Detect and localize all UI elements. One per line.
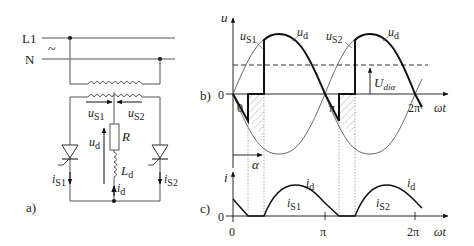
id-curve-label-2: id bbox=[407, 176, 415, 192]
ud-curve-label-2: ud bbox=[388, 25, 399, 41]
circuit-diagram: L1 N ~ uS1 uS2 R Ld ud id bbox=[22, 31, 178, 215]
tick-2pi-b: 2π bbox=[408, 101, 420, 115]
us1-label: uS1 bbox=[88, 106, 105, 122]
hatch-region-1 bbox=[248, 94, 264, 136]
is1-curve-label: iS1 bbox=[287, 196, 301, 212]
n-label: N bbox=[25, 52, 35, 67]
thyristor-1 bbox=[58, 145, 78, 165]
primary-winding bbox=[88, 82, 142, 85]
is2-curve-label: iS2 bbox=[376, 196, 390, 212]
l1-label: L1 bbox=[22, 31, 36, 46]
wt-label-c: ωt bbox=[434, 225, 446, 239]
thyristor-2 bbox=[148, 145, 168, 165]
ac-symbol: ~ bbox=[48, 42, 56, 57]
tick-2pi-c: 2π bbox=[407, 225, 419, 239]
resistor bbox=[110, 124, 119, 150]
udia-label: Udiα bbox=[374, 75, 395, 92]
hatch-region-2 bbox=[339, 94, 355, 136]
us1-curve-label: uS1 bbox=[240, 29, 257, 45]
secondary-winding bbox=[88, 95, 142, 98]
panel-a-label: a) bbox=[26, 200, 36, 215]
tick-pi-c: π bbox=[320, 225, 326, 239]
ud-label: ud bbox=[89, 135, 100, 151]
current-chart: i 0 0 π 2π ωt c) id iS1 id iS2 bbox=[200, 170, 448, 239]
resistor-label: R bbox=[121, 129, 130, 144]
is2-label: iS2 bbox=[164, 172, 178, 188]
i-axis-label: i bbox=[224, 170, 228, 185]
panel-b-label: b) bbox=[200, 88, 211, 103]
tick-0-c: 0 bbox=[229, 225, 235, 239]
us2-label: uS2 bbox=[128, 106, 145, 122]
id-curve bbox=[233, 185, 422, 216]
inductor-label: Ld bbox=[120, 163, 133, 180]
id-curve-label-1: id bbox=[306, 176, 314, 192]
wt-label-b: ωt bbox=[434, 101, 446, 115]
rectifier-figure: L1 N ~ uS1 uS2 R Ld ud id bbox=[0, 0, 474, 246]
panel-c-label: c) bbox=[200, 201, 210, 216]
is1-label: iS1 bbox=[52, 172, 66, 188]
alpha-label: α bbox=[252, 157, 260, 172]
id-label: id bbox=[117, 181, 125, 197]
ud-curve-label-1: ud bbox=[297, 25, 308, 41]
zero-label-b: 0 bbox=[218, 88, 224, 102]
u-axis-label: u bbox=[221, 10, 228, 25]
us2-curve-label: uS2 bbox=[326, 29, 343, 45]
zero-label-c: 0 bbox=[218, 210, 224, 224]
